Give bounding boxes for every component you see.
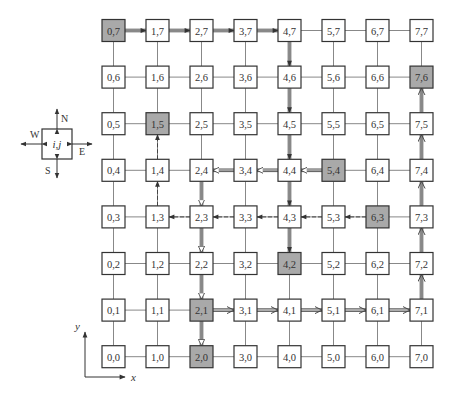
legend-node-label: i,j [53, 138, 62, 150]
mesh-node-1-7: 1,7 [146, 20, 169, 42]
node-label: 4,7 [283, 26, 296, 37]
node-label: 0,5 [107, 119, 120, 130]
node-label: 4,1 [283, 305, 296, 316]
node-label: 7,3 [415, 212, 428, 223]
mesh-node-7-4: 7,4 [410, 159, 433, 181]
node-label: 7,5 [415, 119, 428, 130]
mesh-node-1-5: 1,5 [146, 113, 169, 135]
mesh-node-5-3: 5,3 [322, 206, 345, 228]
mesh-node-6-3: 6,3 [366, 206, 389, 228]
mesh-node-3-6: 3,6 [234, 66, 257, 88]
mesh-node-2-0: 2,0 [190, 346, 213, 368]
mesh-node-4-2: 4,2 [278, 253, 301, 275]
mesh-node-3-0: 3,0 [234, 346, 257, 368]
node-label: 3,6 [239, 72, 252, 83]
node-label: 5,0 [327, 352, 340, 363]
mesh-nodes: 0,01,02,03,04,05,06,07,00,11,12,13,14,15… [102, 20, 433, 368]
mesh-node-6-5: 6,5 [366, 113, 389, 135]
node-label: 5,6 [327, 72, 340, 83]
node-label: 6,6 [371, 72, 384, 83]
mesh-node-2-3: 2,3 [190, 206, 213, 228]
node-label: 5,5 [327, 119, 340, 130]
mesh-node-7-2: 7,2 [410, 253, 433, 275]
mesh-node-1-4: 1,4 [146, 159, 169, 181]
mesh-node-7-7: 7,7 [410, 20, 433, 42]
node-label: 2,2 [195, 259, 208, 270]
x-axis-label: x [130, 371, 136, 383]
mesh-node-2-1: 2,1 [190, 299, 213, 321]
node-label: 1,0 [151, 352, 164, 363]
mesh-node-0-1: 0,1 [102, 299, 125, 321]
route-open-triangle [200, 169, 322, 346]
mesh-node-2-2: 2,2 [190, 253, 213, 275]
node-label: 2,3 [195, 212, 208, 223]
mesh-node-1-3: 1,3 [146, 206, 169, 228]
node-label: 7,2 [415, 259, 428, 270]
node-label: 6,1 [371, 305, 384, 316]
mesh-node-0-5: 0,5 [102, 113, 125, 135]
node-label: 0,4 [107, 165, 121, 176]
mesh-node-0-2: 0,2 [102, 253, 125, 275]
mesh-node-1-6: 1,6 [146, 66, 169, 88]
node-label: 5,2 [327, 259, 340, 270]
north-label: N [61, 113, 68, 124]
mesh-node-7-6: 7,6 [410, 66, 433, 88]
node-label: 6,3 [371, 212, 384, 223]
mesh-node-4-6: 4,6 [278, 66, 301, 88]
node-label: 3,0 [239, 352, 252, 363]
node-label: 7,6 [415, 72, 428, 83]
node-label: 7,1 [415, 305, 428, 316]
mesh-node-6-4: 6,4 [366, 159, 389, 181]
node-label: 5,3 [327, 212, 340, 223]
node-label: 1,5 [151, 119, 164, 130]
mesh-node-2-5: 2,5 [190, 113, 213, 135]
node-label: 3,7 [239, 26, 252, 37]
node-label: 6,4 [371, 165, 385, 176]
mesh-node-2-6: 2,6 [190, 66, 213, 88]
node-label: 3,2 [239, 259, 252, 270]
mesh-node-1-2: 1,2 [146, 253, 169, 275]
mesh-node-5-2: 5,2 [322, 253, 345, 275]
node-label: 7,0 [415, 352, 428, 363]
mesh-diagram-canvas: 0,01,02,03,04,05,06,07,00,11,12,13,14,15… [0, 0, 451, 399]
west-label: W [30, 129, 40, 140]
node-label: 6,0 [371, 352, 384, 363]
mesh-node-3-4: 3,4 [234, 159, 257, 181]
node-label: 5,1 [327, 305, 340, 316]
mesh-node-0-7: 0,7 [102, 20, 125, 42]
node-label: 1,7 [151, 26, 164, 37]
node-label: 4,5 [283, 119, 296, 130]
mesh-node-0-0: 0,0 [102, 346, 125, 368]
mesh-node-6-6: 6,6 [366, 66, 389, 88]
mesh-node-3-2: 3,2 [234, 253, 257, 275]
node-label: 7,7 [415, 26, 428, 37]
node-label: 1,2 [151, 259, 164, 270]
mesh-node-7-1: 7,1 [410, 299, 433, 321]
y-axis-label: y [74, 320, 80, 332]
node-label: 2,6 [195, 72, 208, 83]
mesh-node-5-1: 5,1 [322, 299, 345, 321]
mesh-node-5-7: 5,7 [322, 20, 345, 42]
node-label: 4,6 [283, 72, 296, 83]
mesh-node-2-7: 2,7 [190, 20, 213, 42]
node-label: 2,4 [195, 165, 209, 176]
node-label: 5,7 [327, 26, 340, 37]
node-label: 4,3 [283, 212, 296, 223]
node-label: 1,4 [151, 165, 165, 176]
mesh-node-3-3: 3,3 [234, 206, 257, 228]
mesh-node-7-3: 7,3 [410, 206, 433, 228]
node-label: 6,7 [371, 26, 384, 37]
mesh-node-1-1: 1,1 [146, 299, 169, 321]
mesh-diagram: 0,01,02,03,04,05,06,07,00,11,12,13,14,15… [0, 0, 451, 399]
south-label: S [45, 165, 51, 176]
node-label: 1,6 [151, 72, 164, 83]
node-label: 2,5 [195, 119, 208, 130]
mesh-node-4-4: 4,4 [278, 159, 301, 181]
node-label: 3,3 [239, 212, 252, 223]
mesh-node-5-0: 5,0 [322, 346, 345, 368]
node-label: 2,0 [195, 352, 208, 363]
mesh-node-4-7: 4,7 [278, 20, 301, 42]
mesh-node-5-5: 5,5 [322, 113, 345, 135]
node-label: 0,7 [107, 26, 120, 37]
mesh-node-5-6: 5,6 [322, 66, 345, 88]
